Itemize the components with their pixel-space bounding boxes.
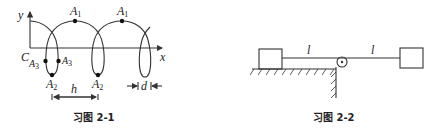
trochoid-curve: [30, 21, 151, 77]
x-axis-label: x: [159, 50, 166, 64]
point-a3-left: [43, 59, 47, 63]
caption-fig-2-2: 习图 2-2: [313, 112, 355, 123]
length-label-left: l: [307, 43, 311, 57]
label-a3-right: A3: [61, 55, 72, 68]
label-a2-first: A2: [45, 77, 57, 92]
block-left: [259, 49, 282, 69]
label-a3-left: A3: [28, 58, 39, 71]
label-a1-second: A1: [116, 4, 128, 19]
wall-hatching: [331, 72, 336, 98]
point-a3-right: [56, 59, 60, 63]
figure-2-1: y x A1 A1 A2 A2 C A3 A3 h d 习图 2-1: [17, 4, 166, 123]
figure-2-2: l l 习图 2-2: [250, 43, 423, 123]
figure-canvas: y x A1 A1 A2 A2 C A3 A3 h d 习图 2-1: [0, 0, 441, 129]
block-right: [400, 48, 423, 68]
table-hatching: [250, 69, 334, 75]
caption-fig-2-1: 习图 2-1: [73, 112, 115, 123]
point-a1-second: [120, 19, 124, 23]
label-a1-first: A1: [69, 4, 81, 19]
y-axis-label: y: [17, 8, 24, 22]
length-label-right: l: [371, 43, 375, 57]
pulley-axle: [341, 61, 343, 63]
point-a1-first: [73, 19, 77, 23]
label-a2-second: A2: [91, 77, 103, 92]
d-label: d: [141, 79, 148, 93]
h-label: h: [71, 82, 77, 96]
